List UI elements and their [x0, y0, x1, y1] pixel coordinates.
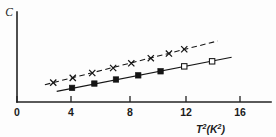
marker-cross: [50, 80, 56, 86]
marker-cross: [110, 65, 116, 71]
x-tick-label-1: 4: [68, 106, 74, 118]
marker-square-open: [182, 64, 187, 69]
trend-line-lower-series: [57, 57, 232, 91]
x-tick-label-3: 12: [180, 106, 192, 118]
x-axis-title-paren-close: ): [221, 123, 226, 135]
x-axis-ticks: [17, 96, 240, 102]
chart-canvas: 0 4 8 12 16 C T2(K2): [0, 0, 276, 137]
marker-square-open: [209, 59, 214, 64]
marker-square-filled: [136, 73, 141, 78]
x-axis-tick-labels: 0 4 8 12 16: [14, 106, 246, 118]
marker-cross: [70, 75, 76, 81]
chart-figure: 0 4 8 12 16 C T2(K2): [0, 0, 276, 137]
marker-square-filled: [158, 69, 163, 74]
marker-square-filled: [92, 81, 97, 86]
marker-square-filled: [113, 77, 118, 82]
x-axis-title: T2(K2): [196, 122, 226, 135]
x-tick-label-4: 16: [234, 106, 246, 118]
data-series-layer: [45, 41, 232, 91]
y-axis-title: C: [5, 6, 13, 18]
x-tick-label-2: 8: [127, 106, 133, 118]
marker-square-filled: [69, 85, 74, 90]
series-lower-series: [57, 57, 232, 91]
series-upper-series: [45, 41, 218, 86]
marker-cross: [128, 60, 134, 66]
x-tick-label-0: 0: [14, 106, 20, 118]
